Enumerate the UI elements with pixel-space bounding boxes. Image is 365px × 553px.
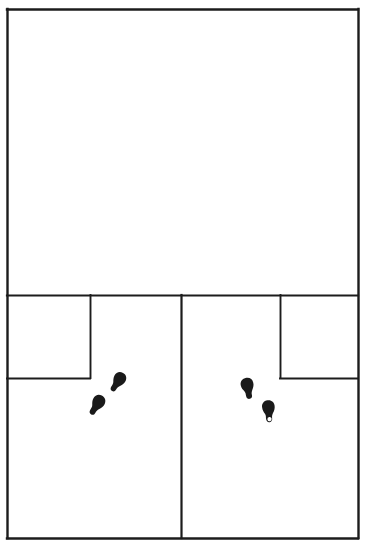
room-upper-main-fill [8, 10, 357, 294]
floor-plan-canvas [0, 0, 365, 553]
floor-plan-diagram [0, 0, 365, 553]
room-lower-left-main-fill [8, 296, 180, 537]
